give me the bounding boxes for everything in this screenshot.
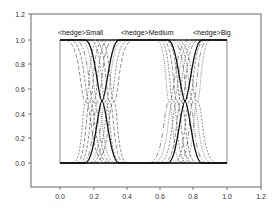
y-tick-label: 0.2 [15,135,25,142]
hedged-curve [76,40,227,163]
y-tick-label: 1.2 [15,11,25,18]
y-tick-label: 0.4 [15,111,25,118]
hedged-curve [88,40,227,163]
y-tick-label: 0.6 [15,86,25,93]
hedged-curve [164,40,227,163]
hedged-curve [60,40,106,163]
hedged-curve [149,40,227,163]
y-tick-label: 0.8 [15,61,25,68]
hedged-curve [60,40,121,163]
hedged-curve [60,40,124,163]
membership-chart: 1.2 1.0 0.8 0.6 0.4 0.2 0.0 0.0 0.2 0.4 … [0,0,279,210]
label-big: <hedge>Big [193,29,231,37]
x-tick-label: 0.4 [122,193,132,200]
label-small: <hedge>Small [58,29,104,37]
hedged-curve [60,40,182,163]
x-tick-label: 0.6 [155,193,165,200]
x-tick-label: 0.2 [89,193,99,200]
x-tick-label: 1.2 [256,193,266,200]
x-tick-label: 1.0 [222,193,232,200]
x-tick-label: 0.8 [188,193,198,200]
hedged-curve [60,40,192,163]
x-axis: 0.0 0.2 0.4 0.6 0.8 1.0 1.2 [55,187,266,200]
hedged-curve [154,40,227,163]
hedged-curves [60,40,227,163]
hedged-curve [73,40,227,163]
x-tick-label: 0.0 [55,193,65,200]
y-tick-label: 1.0 [15,37,25,44]
y-tick-label: 0.0 [15,160,25,167]
hedged-curve [60,40,115,163]
label-medium: <hedge>Medium [121,29,174,37]
y-axis: 1.2 1.0 0.8 0.6 0.4 0.2 0.0 [15,11,31,167]
hedged-curve [60,40,187,163]
